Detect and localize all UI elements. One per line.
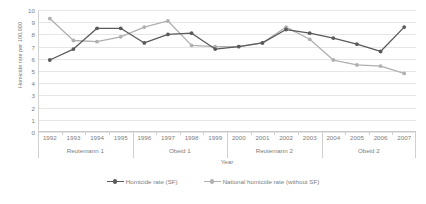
data-point (331, 58, 335, 62)
x-axis-tick-mark (274, 132, 275, 135)
legend-label: Homicide rate (SF) (126, 178, 178, 185)
chart-legend: Homicide rate (SF)National homicide rate… (0, 178, 426, 185)
x-axis-tick-mark (298, 132, 299, 135)
x-axis-tick-mark (62, 132, 63, 135)
x-axis-tick-label: 1998 (185, 134, 199, 141)
y-axis-tick-label: 3 (32, 92, 35, 99)
x-axis-tick-mark (109, 132, 110, 135)
data-point (142, 41, 146, 45)
y-axis-tick-label: 0 (32, 129, 35, 136)
homicide-rate-line-chart: Homicide rate per 100,000 012345678910 1… (0, 0, 426, 204)
data-point (261, 41, 265, 45)
data-point (72, 47, 76, 51)
x-axis-tick-label: 2003 (303, 134, 317, 141)
data-point (308, 31, 312, 35)
x-axis-tick-label: 1995 (114, 134, 128, 141)
data-point (48, 58, 52, 62)
data-point (48, 17, 52, 21)
x-axis-tick-label: 2006 (374, 134, 388, 141)
x-axis-band: 1992199319941995199619971998199920002001… (38, 132, 416, 158)
period-separator (133, 132, 134, 158)
data-point (308, 37, 312, 41)
legend-item[interactable]: National homicide rate (without SF) (204, 178, 320, 185)
data-point (166, 33, 170, 37)
data-point (402, 72, 406, 76)
y-axis-tick-label: 10 (28, 7, 35, 14)
data-point (166, 19, 170, 23)
period-group-label: Obeid 2 (358, 147, 380, 154)
x-axis-tick-label: 2000 (232, 134, 246, 141)
period-separator (227, 132, 228, 158)
y-axis-tick-label: 8 (32, 31, 35, 38)
y-axis-tick-label: 7 (32, 43, 35, 50)
period-separator (38, 132, 39, 158)
data-point (355, 63, 359, 67)
legend-item[interactable]: Homicide rate (SF) (107, 178, 178, 185)
data-point (284, 28, 288, 32)
data-point (379, 64, 383, 68)
y-axis-tick-label: 4 (32, 80, 35, 87)
data-point (190, 43, 194, 47)
x-axis-tick-mark (369, 132, 370, 135)
data-point (402, 25, 406, 29)
x-axis-tick-label: 1994 (90, 134, 104, 141)
data-point (331, 36, 335, 40)
period-group-label: Obeid 1 (169, 147, 191, 154)
x-axis-tick-label: 1993 (67, 134, 81, 141)
period-group-label: Reutemann 2 (256, 147, 293, 154)
y-axis-tick-label: 2 (32, 104, 35, 111)
data-point (95, 26, 99, 30)
y-axis-tick-label: 1 (32, 116, 35, 123)
x-axis-tick-label: 2004 (326, 134, 340, 141)
period-group-label: Reutemann 1 (67, 147, 104, 154)
x-axis-tick-mark (203, 132, 204, 135)
series-layer (38, 10, 416, 132)
x-axis-tick-label: 2005 (350, 134, 364, 141)
legend-marker-icon (204, 178, 221, 185)
y-axis-tick-label: 9 (32, 19, 35, 26)
data-point (190, 31, 194, 35)
data-point (119, 26, 123, 30)
x-axis-tick-mark (251, 132, 252, 135)
x-axis-tick-label: 2002 (279, 134, 293, 141)
data-point (379, 50, 383, 54)
legend-marker-icon (107, 178, 124, 185)
data-point (95, 40, 99, 44)
y-axis-tick-label: 5 (32, 68, 35, 75)
period-separator (322, 132, 323, 158)
series-line (50, 19, 404, 74)
data-point (119, 35, 123, 39)
x-axis-tick-mark (345, 132, 346, 135)
data-point (213, 47, 217, 51)
x-axis-title: Year (38, 158, 416, 165)
x-axis-tick-mark (85, 132, 86, 135)
x-axis-tick-label: 2007 (397, 134, 411, 141)
y-axis-tick-label: 6 (32, 55, 35, 62)
plot-area: 012345678910 (38, 10, 416, 132)
series-line (50, 27, 404, 60)
data-point (142, 25, 146, 29)
x-axis-tick-label: 2001 (256, 134, 270, 141)
data-point (355, 42, 359, 46)
x-axis-tick-mark (392, 132, 393, 135)
period-separator (415, 132, 416, 158)
x-axis-tick-label: 1996 (137, 134, 151, 141)
x-axis-tick-label: 1999 (208, 134, 222, 141)
x-axis-tick-label: 1992 (43, 134, 57, 141)
x-axis-tick-mark (156, 132, 157, 135)
x-axis-tick-label: 1997 (161, 134, 175, 141)
y-axis-title: Homicide rate per 100,000 (17, 0, 23, 115)
data-point (237, 45, 241, 49)
x-axis-tick-mark (180, 132, 181, 135)
data-point (72, 39, 76, 43)
legend-label: National homicide rate (without SF) (223, 178, 320, 185)
